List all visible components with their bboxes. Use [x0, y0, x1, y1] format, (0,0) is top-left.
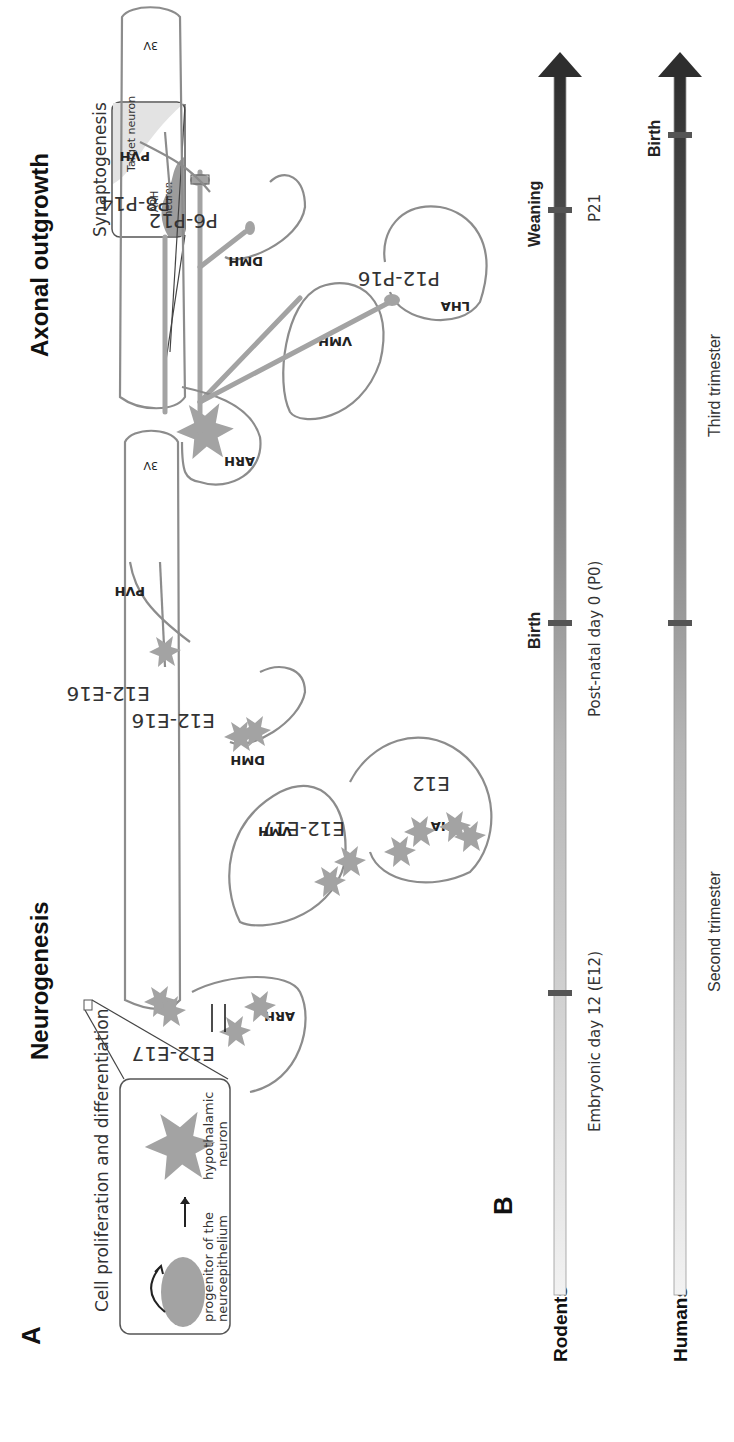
pvh-stage-axonal: P8-P14 — [100, 192, 170, 216]
vmh-label: VMH — [258, 824, 292, 839]
panel-a-label: A — [16, 1326, 46, 1345]
humans-timeline-bar — [674, 75, 686, 1295]
dmh-label: DMH — [230, 753, 265, 768]
arh-projection-neuron-icon — [176, 403, 234, 459]
arh-neurons — [144, 986, 276, 1047]
neuroepithelium-marker — [84, 1000, 92, 1010]
humans-label: Humans — [670, 1287, 691, 1362]
humans-birth-label: Birth — [646, 120, 663, 157]
vmh-outline — [229, 786, 345, 926]
rodents-birth-label: Birth — [526, 612, 543, 649]
third-ventricle-label: 3V — [143, 459, 158, 472]
progenitor-label-line2: neuroepithelium — [215, 1215, 230, 1322]
neurogenesis-title: Neurogenesis — [26, 901, 53, 1060]
pvh-stage: E12-E16 — [67, 682, 150, 706]
vmh-neurons — [314, 846, 366, 897]
figure-canvas: A B Neurogenesis Cell proliferation and … — [0, 0, 734, 1442]
dmh-terminal — [245, 221, 255, 235]
humans-third-trimester-label: Third trimester — [706, 333, 723, 437]
humans-timeline-arrowhead-icon — [658, 52, 702, 77]
arh-label-axonal: ARH — [224, 454, 255, 469]
progenitor-cell-icon — [161, 1257, 205, 1327]
panel-b-label: B — [488, 1196, 518, 1215]
rodents-timeline-arrowhead-icon — [538, 52, 582, 77]
rodents-p21-label: P21 — [586, 194, 604, 222]
humans-second-trimester-label: Second trimester — [706, 870, 723, 992]
rotated-figure: A B Neurogenesis Cell proliferation and … — [16, 7, 723, 1362]
neurogenesis-panel: Neurogenesis Cell proliferation and diff… — [26, 431, 491, 1334]
lha-outline-axonal — [384, 206, 486, 320]
rodents-label: Rodents — [550, 1286, 571, 1362]
inset-connector-line — [165, 235, 185, 367]
neuron-label-line2: neuron — [215, 1121, 230, 1167]
axonal-outgrowth-panel: Axonal outgrowth Synaptogenesis Target n… — [26, 7, 486, 484]
lha-outline — [350, 738, 491, 883]
dmh-label-axonal: DMH — [228, 254, 263, 269]
pvh-label: PVH — [115, 584, 145, 599]
third-ventricle-label-axonal: 3V — [143, 39, 158, 52]
dmh-outline-axonal — [225, 175, 305, 259]
arh-stage: E12-E17 — [132, 1042, 215, 1066]
rodents-timeline-bar — [554, 75, 566, 1295]
progenitor-label-line1: progenitor of the — [201, 1212, 216, 1322]
pvh-label-axonal: PVH — [120, 149, 150, 164]
lha-label-axonal: LHA — [441, 299, 470, 314]
lha-stage: E12 — [412, 772, 450, 796]
timeline-panel: Rodents Embryonic day 12 (E12) Birth Pos… — [526, 52, 723, 1362]
lha-stage-axonal: P12-P16 — [358, 267, 440, 291]
dmh-neurons — [224, 716, 271, 752]
rodents-weaning-label: Weaning — [526, 181, 543, 247]
lha-terminal — [384, 294, 400, 306]
proliferation-inset-title: Cell proliferation and differentiation — [92, 1008, 112, 1312]
rodents-p0-label: Post-natal day 0 (P0) — [586, 561, 604, 717]
neuron-label-line1: hypothalamic — [201, 1092, 216, 1180]
dmh-stage: E12-E16 — [132, 709, 215, 733]
axonal-outgrowth-title: Axonal outgrowth — [26, 153, 53, 357]
arh-outline — [192, 977, 306, 1092]
rodents-e12-label: Embryonic day 12 (E12) — [586, 951, 604, 1132]
